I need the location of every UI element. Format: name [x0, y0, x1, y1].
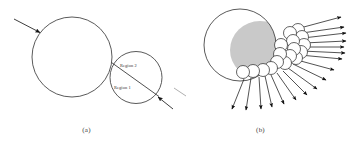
region-1-label: Region 1 — [114, 85, 131, 90]
region-divider-chord — [112, 63, 160, 97]
incoming-arrow-upper-left — [14, 19, 40, 33]
panel-a: Region 2 Region 1 (a) — [0, 0, 173, 150]
panel-b: (b) — [174, 0, 347, 150]
incoming-arrow-lower-right — [158, 97, 173, 109]
stray-line — [174, 88, 186, 96]
caption-a: (a) — [0, 126, 173, 134]
region-2-label: Region 2 — [120, 63, 137, 68]
caption-b: (b) — [174, 126, 347, 134]
large-circle-a — [32, 17, 112, 97]
figure-root: Region 2 Region 1 (a) — [0, 0, 347, 150]
small-circle-a — [110, 52, 162, 104]
